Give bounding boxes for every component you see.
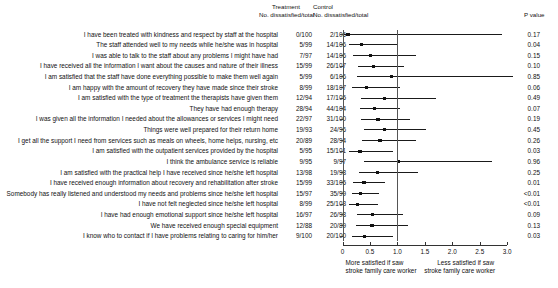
axis-caption-right-line2: stroke family care worker	[424, 267, 495, 276]
table-row: I have been treated with kindness and re…	[0, 29, 558, 40]
x-axis-tick	[370, 242, 371, 245]
row-control-value: 18/107	[280, 82, 346, 93]
row-statement-label: I have received enough information about…	[0, 177, 278, 188]
row-control-value: 26/107	[280, 60, 346, 71]
row-control-value: 14/106	[280, 39, 346, 50]
table-row: The staff attended well to my needs whil…	[0, 39, 558, 50]
x-axis-tick	[397, 242, 398, 245]
row-statement-label: I think the ambulance service is reliabl…	[0, 156, 278, 167]
row-pvalue: 0.85	[492, 71, 540, 82]
axis-caption-left-line2: stroke family care worker	[346, 267, 417, 276]
table-row: I have received all the information I wa…	[0, 60, 558, 71]
x-axis-tick	[452, 242, 453, 245]
x-axis-tick	[425, 242, 426, 245]
table-row: I was given all the information I needed…	[0, 113, 558, 124]
table-row: I know who to contact if I have problems…	[0, 230, 558, 241]
x-axis-tick	[480, 242, 481, 245]
column-subheader-treatment: No. dissatisfied/total	[259, 11, 314, 19]
row-statement-label: I am satisfied that the staff have done …	[0, 71, 278, 82]
forest-plot: Treatment Control No. dissatisfied/total…	[0, 0, 558, 288]
row-statement-label: I was able to talk to the staff about an…	[0, 50, 278, 61]
row-control-value: 33/105	[280, 177, 346, 188]
row-statement-label: We have received enough special equipmen…	[0, 220, 278, 231]
column-header-control: Control	[313, 3, 333, 11]
table-row: I am satisfied with the type of treatmen…	[0, 92, 558, 103]
row-statement-label: Somebody has really listened and underst…	[0, 188, 278, 199]
row-pvalue: 0.25	[492, 167, 540, 178]
row-pvalue: 0.10	[492, 60, 540, 71]
row-pvalue: <0.01	[492, 198, 540, 209]
x-axis-line	[343, 245, 508, 246]
row-control-value: 31/100	[280, 113, 346, 124]
row-statement-label: I know who to contact if I have problems…	[0, 230, 278, 241]
table-row: I have had enough emotional support sinc…	[0, 209, 558, 220]
row-control-value: 24/96	[280, 124, 346, 135]
row-pvalue: 0.07	[492, 103, 540, 114]
row-statement-label: I am satisfied with the outpatient servi…	[0, 145, 278, 156]
row-control-value: 9/97	[280, 156, 346, 167]
row-pvalue: 0.03	[492, 230, 540, 241]
row-pvalue: 0.17	[492, 29, 540, 40]
table-row: I am satisfied with the outpatient servi…	[0, 145, 558, 156]
row-pvalue: 0.45	[492, 124, 540, 135]
row-control-value: 19/98	[280, 167, 346, 178]
row-statement-label: They have had enough therapy	[0, 103, 278, 114]
row-statement-label: I have been treated with kindness and re…	[0, 29, 278, 40]
x-axis-tick-label: 2.0	[437, 248, 467, 256]
table-row: I am happy with the amount of recovery t…	[0, 82, 558, 93]
row-statement-label: I am happy with the amount of recovery t…	[0, 82, 278, 93]
x-axis-tick-label: 0.5	[355, 248, 385, 256]
table-row: I was able to talk to the staff about an…	[0, 50, 558, 61]
table-row: I have not felt neglected since he/she l…	[0, 198, 558, 209]
row-control-value: 26/98	[280, 209, 346, 220]
table-row: I have received enough information about…	[0, 177, 558, 188]
row-control-value: 44/104	[280, 103, 346, 114]
row-pvalue: 0.19	[492, 113, 540, 124]
row-control-value: 28/94	[280, 135, 346, 146]
table-row: I am satisfied that the staff have done …	[0, 71, 558, 82]
column-subheader-control: No. dissatisfied/total	[313, 11, 368, 19]
row-control-value: 14/106	[280, 50, 346, 61]
row-control-value: 25/103	[280, 198, 346, 209]
row-statement-label: I have received all the information I wa…	[0, 60, 278, 71]
table-row: We have received enough special equipmen…	[0, 220, 558, 231]
x-axis-tick-label: 2.5	[465, 248, 495, 256]
column-header-treatment: Treatment	[272, 3, 300, 11]
row-control-value: 17/105	[280, 92, 346, 103]
row-statement-label: Things were well prepared for their retu…	[0, 124, 278, 135]
row-pvalue: 0.15	[492, 50, 540, 61]
table-row: I am satisfied with the practical help I…	[0, 167, 558, 178]
row-pvalue: 0.01	[492, 177, 540, 188]
row-control-value: 6/106	[280, 71, 346, 82]
x-axis-tick-label: 3.0	[492, 248, 522, 256]
row-control-value: 15/101	[280, 145, 346, 156]
table-row: I think the ambulance service is reliabl…	[0, 156, 558, 167]
row-pvalue: 0.13	[492, 220, 540, 231]
row-statement-label: I have had enough emotional support sinc…	[0, 209, 278, 220]
x-axis-tick-label: 1.0	[382, 248, 412, 256]
x-axis-tick	[507, 242, 508, 245]
row-pvalue: 0.09	[492, 209, 540, 220]
row-pvalue: 0.04	[492, 39, 540, 50]
column-header-pvalue: P value	[524, 11, 545, 19]
table-row: They have had enough therapy28/9444/1040…	[0, 103, 558, 114]
row-pvalue: 0.96	[492, 156, 540, 167]
table-row: Somebody has really listened and underst…	[0, 188, 558, 199]
row-control-value: 20/100	[280, 230, 346, 241]
row-statement-label: I am satisfied with the practical help I…	[0, 167, 278, 178]
row-pvalue: <0.01	[492, 188, 540, 199]
row-pvalue: 0.49	[492, 92, 540, 103]
x-axis-tick	[343, 242, 344, 245]
row-statement-label: I am satisfied with the type of treatmen…	[0, 92, 278, 103]
row-statement-label: I get all the support I need from servic…	[0, 135, 278, 146]
row-control-value: 2/106	[280, 29, 346, 40]
table-row: I get all the support I need from servic…	[0, 135, 558, 146]
x-axis-tick-label: 1.5	[410, 248, 440, 256]
row-pvalue: 0.06	[492, 82, 540, 93]
x-axis-tick-label: 0	[328, 248, 358, 256]
row-statement-label: I was given all the information I needed…	[0, 113, 278, 124]
row-statement-label: I have not felt neglected since he/she l…	[0, 198, 278, 209]
row-pvalue: 0.03	[492, 145, 540, 156]
table-row: Things were well prepared for their retu…	[0, 124, 558, 135]
row-pvalue: 0.26	[492, 135, 540, 146]
